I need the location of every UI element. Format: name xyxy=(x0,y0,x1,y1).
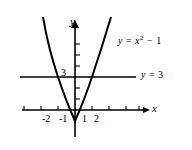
parabola-eq-operator: = xyxy=(126,35,132,46)
line-eq-lhs: y xyxy=(141,69,146,80)
parabola-eq-lhs: y xyxy=(118,35,123,46)
line-eq-value: 3 xyxy=(158,69,164,80)
parabola-equation-label: y = x2 − 1 xyxy=(118,36,162,46)
y-axis-label: y xyxy=(70,16,75,27)
parabola-eq-exponent: 2 xyxy=(140,34,144,42)
x-tick-label-minus-1: -1 xyxy=(59,114,67,124)
x-tick-label-minus-2: -2 xyxy=(42,114,50,124)
x-tick-label-2: 2 xyxy=(94,114,99,124)
parabola-curve xyxy=(43,17,111,121)
coordinate-graph-figure: y x 3 -2 -1 1 2 y = x2 − 1 y = 3 xyxy=(0,0,192,150)
x-axis-label: x xyxy=(152,103,157,114)
x-axis xyxy=(22,106,150,113)
y-tick-label-3: 3 xyxy=(61,68,66,78)
line-eq-operator: = xyxy=(149,69,155,80)
parabola-eq-constant: 1 xyxy=(156,35,162,46)
line-equation-label: y = 3 xyxy=(141,70,164,80)
x-tick-label-1: 1 xyxy=(82,114,87,124)
parabola-eq-minus: − xyxy=(147,35,153,46)
